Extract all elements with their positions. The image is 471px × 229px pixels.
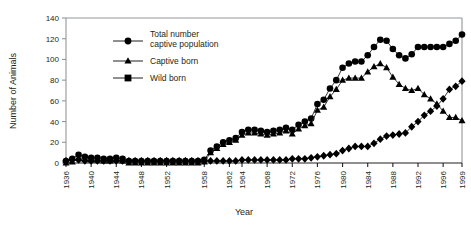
- series-captive-born: [63, 60, 466, 166]
- y-tick-label: 100: [46, 55, 60, 64]
- diamond-marker-icon: [301, 155, 308, 163]
- diamond-marker-icon: [446, 86, 453, 94]
- circle-marker-icon: [125, 38, 132, 45]
- x-axis-tick-labels: 1936194019441948195219581962196419681972…: [62, 170, 467, 188]
- diamond-marker-icon: [326, 151, 333, 159]
- triangle-marker-icon: [320, 103, 327, 109]
- triangle-marker-icon: [124, 57, 131, 63]
- square-marker-icon: [125, 75, 132, 82]
- circle-marker-icon: [396, 52, 403, 59]
- circle-marker-icon: [415, 44, 422, 51]
- diamond-marker-icon: [150, 157, 157, 165]
- diamond-marker-icon: [339, 147, 346, 155]
- circle-marker-icon: [390, 46, 397, 53]
- circle-marker-icon: [440, 44, 447, 51]
- triangle-marker-icon: [415, 85, 422, 91]
- diamond-marker-icon: [396, 130, 403, 138]
- diamond-marker-icon: [295, 155, 302, 163]
- legend-label-captive-born: Captive born: [150, 56, 198, 66]
- diamond-marker-icon: [370, 139, 377, 147]
- series-total-number-captive-population: [63, 31, 466, 164]
- legend-entry-captive-born: Captive born: [113, 56, 198, 66]
- chart-figure: 020406080100120140 193619401944194819521…: [0, 0, 471, 229]
- x-tick-label: 1964: [238, 170, 247, 188]
- circle-marker-icon: [358, 58, 365, 65]
- diamond-marker-icon: [132, 157, 139, 165]
- legend-entry-total-number-captive-population: Total number captive population: [113, 29, 219, 49]
- triangle-marker-icon: [389, 73, 396, 79]
- diamond-marker-icon: [377, 135, 384, 143]
- circle-marker-icon: [446, 41, 453, 48]
- circle-marker-icon: [452, 37, 459, 44]
- diamond-marker-icon: [232, 157, 239, 165]
- circle-marker-icon: [427, 44, 434, 51]
- diamond-marker-icon: [383, 132, 390, 140]
- circle-marker-icon: [402, 55, 409, 62]
- diamond-marker-icon: [62, 157, 69, 165]
- diamond-marker-icon: [163, 157, 170, 165]
- diamond-marker-icon: [194, 157, 201, 165]
- triangle-marker-icon: [371, 63, 378, 69]
- y-tick-label: 60: [50, 97, 59, 106]
- y-axis-ticks: [62, 18, 66, 163]
- triangle-marker-icon: [383, 64, 390, 70]
- y-tick-label: 40: [50, 118, 59, 127]
- x-tick-label: 1984: [364, 170, 373, 188]
- triangle-marker-icon: [352, 74, 359, 80]
- circle-marker-icon: [352, 58, 359, 65]
- circle-marker-icon: [377, 36, 384, 43]
- circle-marker-icon: [320, 97, 327, 104]
- x-tick-label: 1976: [313, 170, 322, 188]
- diamond-marker-icon: [345, 145, 352, 153]
- x-tick-label: 1962: [225, 170, 234, 188]
- diamond-marker-icon: [144, 157, 151, 165]
- diamond-marker-icon: [169, 157, 176, 165]
- y-tick-label: 120: [46, 35, 60, 44]
- circle-marker-icon: [408, 51, 415, 58]
- diamond-marker-icon: [176, 157, 183, 165]
- triangle-marker-icon: [427, 95, 434, 101]
- x-tick-label: 1958: [200, 170, 209, 188]
- circle-marker-icon: [333, 77, 340, 84]
- x-tick-label: 1972: [288, 170, 297, 188]
- line-chart: 020406080100120140 193619401944194819521…: [0, 0, 471, 229]
- diamond-marker-icon: [364, 143, 371, 151]
- y-tick-label: 140: [46, 14, 60, 23]
- y-axis-tick-labels: 020406080100120140: [46, 14, 60, 168]
- diamond-marker-icon: [389, 131, 396, 139]
- triangle-marker-icon: [333, 86, 340, 92]
- circle-marker-icon: [314, 101, 321, 108]
- diamond-marker-icon: [308, 154, 315, 162]
- triangle-marker-icon: [377, 60, 384, 66]
- diamond-marker-icon: [458, 77, 465, 85]
- circle-marker-icon: [459, 31, 466, 38]
- diamond-marker-icon: [427, 107, 434, 115]
- diamond-marker-icon: [207, 157, 214, 165]
- diamond-marker-icon: [289, 155, 296, 163]
- diamond-marker-icon: [226, 157, 233, 165]
- x-tick-label: 1936: [62, 170, 71, 188]
- diamond-marker-icon: [157, 157, 164, 165]
- y-axis-title: Number of Animals: [8, 52, 18, 129]
- legend-label-total-line1: Total number: [150, 29, 199, 39]
- x-tick-label: 1988: [389, 170, 398, 188]
- diamond-marker-icon: [213, 157, 220, 165]
- diamond-marker-icon: [188, 157, 195, 165]
- diamond-marker-icon: [182, 157, 189, 165]
- data-series-layer: [62, 31, 465, 165]
- triangle-marker-icon: [459, 117, 466, 123]
- circle-marker-icon: [383, 37, 390, 44]
- diamond-marker-icon: [352, 143, 359, 151]
- diamond-marker-icon: [314, 153, 321, 161]
- triangle-marker-icon: [402, 85, 409, 91]
- circle-marker-icon: [434, 44, 441, 51]
- triangle-marker-icon: [345, 74, 352, 80]
- legend-label-total-line2: captive population: [150, 39, 219, 49]
- x-axis-title: Year: [235, 207, 253, 217]
- circle-marker-icon: [421, 44, 428, 51]
- x-axis-ticks: [66, 163, 462, 167]
- x-tick-label: 1980: [339, 170, 348, 188]
- x-tick-label: 1944: [112, 170, 121, 188]
- x-tick-label: 1952: [163, 170, 172, 188]
- diamond-marker-icon: [333, 150, 340, 158]
